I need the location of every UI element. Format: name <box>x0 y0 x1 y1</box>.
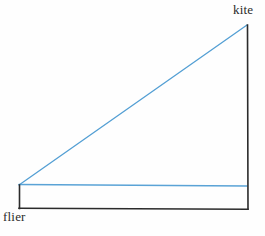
kite-diagram-figure: kite flier <box>0 0 265 236</box>
kite-label: kite <box>233 2 253 18</box>
horizontal-baseline-line <box>19 185 247 187</box>
flier-label: flier <box>3 209 26 225</box>
base-bottom-edge-line <box>19 208 248 209</box>
kite-diagram-canvas <box>0 0 265 236</box>
kite-string-hypotenuse-line <box>19 25 247 185</box>
kite-height-vertical-line <box>248 25 249 209</box>
